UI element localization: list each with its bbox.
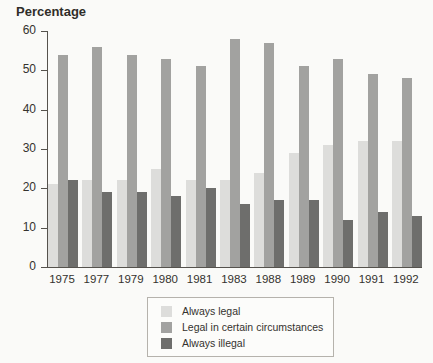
bar-legal-in-certain-circumstances-1983: [230, 39, 240, 267]
bar-always-legal-1992: [392, 141, 402, 267]
bar-group-1991: [358, 74, 388, 267]
x-tick-label-1983: 1983: [219, 273, 249, 285]
bar-legal-in-certain-circumstances-1981: [196, 66, 206, 267]
x-tick-label-1991: 1991: [357, 273, 387, 285]
x-tick-label-1992: 1992: [391, 273, 421, 285]
bar-always-illegal-1981: [206, 188, 216, 267]
bar-always-illegal-1983: [240, 204, 250, 267]
bar-group-1989: [289, 66, 319, 267]
bar-group-1992: [392, 78, 422, 267]
bar-legal-in-certain-circumstances-1989: [299, 66, 309, 267]
y-tick-50: [41, 70, 47, 72]
legend: Always legalLegal in certain circumstanc…: [147, 297, 334, 357]
bar-group-1990: [323, 59, 353, 267]
legend-swatch-always-legal: [161, 306, 172, 317]
y-tick-30: [41, 149, 47, 151]
bar-legal-in-certain-circumstances-1980: [161, 59, 171, 267]
x-tick-label-1979: 1979: [116, 273, 146, 285]
bar-group-1983: [220, 39, 250, 267]
legend-item-always-legal: Always legal: [161, 305, 323, 317]
y-tick-label-60: 60: [4, 24, 36, 36]
bar-legal-in-certain-circumstances-1988: [264, 43, 274, 267]
bar-legal-in-certain-circumstances-1977: [92, 47, 102, 267]
bar-always-illegal-1991: [378, 212, 388, 267]
y-tick-20: [41, 188, 47, 190]
y-tick-label-10: 10: [4, 221, 36, 233]
y-axis-title: Percentage: [16, 4, 86, 19]
bar-always-illegal-1977: [102, 192, 112, 267]
bar-always-illegal-1992: [412, 216, 422, 267]
bar-always-legal-1981: [186, 180, 196, 267]
legend-label-legal-in-certain-circumstances: Legal in certain circumstances: [182, 321, 323, 333]
y-tick-60: [41, 31, 47, 33]
bar-always-legal-1975: [48, 184, 58, 267]
bar-always-legal-1989: [289, 153, 299, 267]
y-tick-label-30: 30: [4, 142, 36, 154]
bar-group-1979: [117, 55, 147, 267]
bar-legal-in-certain-circumstances-1990: [333, 59, 343, 267]
bar-group-1977: [82, 47, 112, 267]
bar-legal-in-certain-circumstances-1991: [368, 74, 378, 267]
legend-label-always-illegal: Always illegal: [182, 337, 245, 349]
bar-always-legal-1991: [358, 141, 368, 267]
legend-label-always-legal: Always legal: [182, 305, 240, 317]
bar-group-1975: [48, 55, 78, 267]
bar-always-illegal-1990: [343, 220, 353, 267]
x-tick-label-1980: 1980: [150, 273, 180, 285]
bar-always-legal-1980: [151, 169, 161, 267]
bar-always-legal-1983: [220, 180, 230, 267]
y-tick-0: [41, 267, 47, 269]
x-tick-label-1975: 1975: [47, 273, 77, 285]
bar-always-legal-1979: [117, 180, 127, 267]
x-tick-label-1990: 1990: [322, 273, 352, 285]
y-tick-label-20: 20: [4, 181, 36, 193]
bar-always-illegal-1989: [309, 200, 319, 267]
bar-always-illegal-1980: [171, 196, 181, 267]
bar-always-illegal-1975: [68, 180, 78, 267]
y-tick-label-50: 50: [4, 63, 36, 75]
plot-area: 0102030405060: [47, 31, 422, 268]
bar-always-legal-1988: [254, 173, 264, 267]
bar-always-illegal-1979: [137, 192, 147, 267]
x-tick-label-1977: 1977: [81, 273, 111, 285]
bar-group-1980: [151, 59, 181, 267]
bar-always-legal-1977: [82, 180, 92, 267]
bar-always-legal-1990: [323, 145, 333, 267]
legend-swatch-always-illegal: [161, 338, 172, 349]
bar-legal-in-certain-circumstances-1979: [127, 55, 137, 267]
bar-legal-in-certain-circumstances-1992: [402, 78, 412, 267]
legend-item-always-illegal: Always illegal: [161, 337, 323, 349]
bar-group-1981: [186, 66, 216, 267]
bar-group-1988: [254, 43, 284, 267]
bar-chart-figure: Percentage 0102030405060 197519771979198…: [0, 0, 433, 363]
legend-swatch-legal-in-certain-circumstances: [161, 322, 172, 333]
x-tick-label-1981: 1981: [185, 273, 215, 285]
bar-legal-in-certain-circumstances-1975: [58, 55, 68, 267]
x-axis-labels: 1975197719791980198119831988198919901991…: [47, 273, 421, 285]
y-tick-label-40: 40: [4, 103, 36, 115]
y-tick-10: [41, 228, 47, 230]
x-tick-label-1989: 1989: [288, 273, 318, 285]
x-tick-label-1988: 1988: [253, 273, 283, 285]
y-tick-label-0: 0: [4, 260, 36, 272]
y-tick-40: [41, 110, 47, 112]
bar-groups: [48, 31, 422, 267]
legend-item-legal-in-certain-circumstances: Legal in certain circumstances: [161, 321, 323, 333]
bar-always-illegal-1988: [274, 200, 284, 267]
